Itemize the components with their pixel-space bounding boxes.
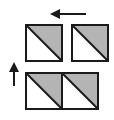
tiles-group xyxy=(26,25,108,109)
tile-diagram xyxy=(0,0,114,120)
arrow-up-icon xyxy=(9,62,19,86)
tile-top-left xyxy=(26,25,62,61)
arrow-head xyxy=(9,62,19,72)
arrow-head xyxy=(50,9,60,19)
tile-bottom-left xyxy=(26,73,62,109)
arrow-left-icon xyxy=(50,9,86,19)
tile-bottom-right xyxy=(62,73,98,109)
tile-top-right xyxy=(72,25,108,61)
